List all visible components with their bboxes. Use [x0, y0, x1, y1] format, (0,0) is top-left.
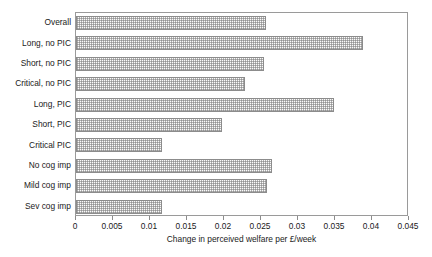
bar-row [76, 74, 407, 94]
bar-row [76, 115, 407, 135]
bar [76, 179, 267, 193]
category-label: Overall [1, 17, 71, 27]
x-axis-tick-label: 0.015 [176, 221, 197, 231]
plot-area [75, 12, 408, 216]
category-label: Sev cog imp [1, 201, 71, 211]
bar [76, 36, 363, 50]
x-axis-tick-label: 0.01 [141, 221, 157, 231]
category-label: Mild cog imp [1, 180, 71, 190]
bar [76, 138, 162, 152]
chart-title [34, 0, 234, 5]
x-axis-tick [223, 216, 224, 220]
x-axis-tick [371, 216, 372, 220]
x-axis-tick [112, 216, 113, 220]
bar-row [76, 197, 407, 217]
category-label: Short, no PIC [1, 58, 71, 68]
category-label: Critical, no PIC [1, 78, 71, 88]
x-axis-tick-label: 0.025 [250, 221, 271, 231]
x-axis-tick [186, 216, 187, 220]
x-axis-tick [75, 216, 76, 220]
category-axis-labels: OverallLong, no PICShort, no PICCritical… [0, 12, 71, 216]
category-label: Critical PIC [1, 140, 71, 150]
x-axis-tick-label: 0.035 [324, 221, 345, 231]
x-axis-tick [260, 216, 261, 220]
bar [76, 98, 334, 112]
bar-row [76, 176, 407, 196]
bar [76, 77, 245, 91]
x-axis-tick-label: 0.005 [102, 221, 123, 231]
x-axis-tick [334, 216, 335, 220]
bar [76, 159, 272, 173]
bar [76, 16, 266, 30]
x-axis-tick-label: 0.03 [289, 221, 305, 231]
x-axis-tick [408, 216, 409, 220]
bar-row [76, 13, 407, 33]
bar-row [76, 95, 407, 115]
bar [76, 118, 222, 132]
x-axis-tick-label: 0.04 [363, 221, 379, 231]
x-axis-tick-label: 0.02 [215, 221, 231, 231]
x-axis-tick [149, 216, 150, 220]
category-label: Long, PIC [1, 99, 71, 109]
x-axis-tick-label: 0 [73, 221, 78, 231]
bar-row [76, 156, 407, 176]
category-label: Long, no PIC [1, 38, 71, 48]
bar-row [76, 135, 407, 155]
category-label: Short, PIC [1, 119, 71, 129]
bar-row [76, 33, 407, 53]
x-axis-tick-label: 0.045 [398, 221, 419, 231]
bar-row [76, 54, 407, 74]
x-axis-tick [297, 216, 298, 220]
bar [76, 200, 162, 214]
x-axis-title: Change in perceived welfare per £/week [75, 234, 408, 244]
bar-chart: OverallLong, no PICShort, no PICCritical… [0, 0, 432, 257]
bar [76, 57, 264, 71]
category-label: No cog imp [1, 160, 71, 170]
